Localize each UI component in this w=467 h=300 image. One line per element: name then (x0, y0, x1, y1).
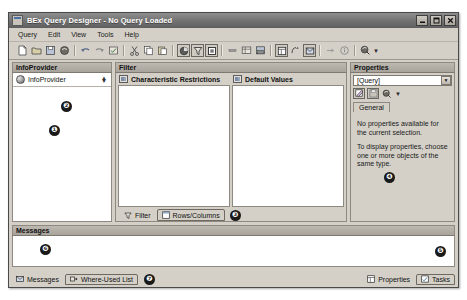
help-dropdown-caret-icon[interactable]: ▼ (373, 48, 379, 54)
properties-panel-icon[interactable] (275, 44, 288, 57)
toolbar-separator (221, 45, 223, 56)
bottom-row: Messages ❻ (12, 225, 455, 267)
status-tab-tasks[interactable]: Tasks (416, 274, 455, 285)
characteristic-restrictions-icon (119, 75, 128, 83)
tab-general[interactable]: General (353, 102, 390, 112)
toolbar-separator (319, 45, 321, 56)
undo-icon[interactable] (79, 44, 92, 57)
tasks-panel-icon[interactable] (289, 44, 302, 57)
application-icon (12, 15, 23, 26)
default-values-header: Default Values (232, 75, 344, 85)
menu-item-help[interactable]: Help (125, 31, 139, 38)
menu-item-tools[interactable]: Tools (97, 31, 113, 38)
callout-4: ❹ (384, 172, 395, 183)
help-pointer-icon[interactable] (359, 44, 372, 57)
status-tab-messages-label: Messages (27, 276, 59, 283)
tab-rows-columns-label: Rows/Columns (173, 212, 220, 219)
infoprovider-sphere-icon (16, 75, 25, 84)
status-tab-tasks-label: Tasks (432, 276, 450, 283)
status-tab-properties-label: Properties (378, 276, 410, 283)
properties-object-selector-value: [Query] (357, 77, 441, 84)
characteristic-restrictions-label: Characteristic Restrictions (131, 76, 220, 83)
messages-panel: Messages ❻ (12, 225, 455, 267)
messages-panel-header: Messages (12, 225, 455, 236)
default-values-section: Default Values (232, 75, 344, 207)
properties-empty-message-2: To display properties, choose one or mor… (357, 143, 448, 169)
cut-icon[interactable] (128, 44, 141, 57)
application-window: BEx Query Designer - No Query Loaded Que… (8, 12, 459, 288)
global-definition-icon[interactable] (177, 44, 190, 57)
infoprovider-tree-item[interactable]: InfoProvider ▲▼ (13, 73, 111, 84)
menu-item-view[interactable]: View (71, 31, 86, 38)
properties-panel-body: No properties available for the current … (350, 112, 455, 222)
chevron-down-icon[interactable]: ▼ (441, 76, 451, 85)
property-help-caret-icon[interactable]: ▼ (395, 91, 401, 97)
title-bar[interactable]: BEx Query Designer - No Query Loaded (9, 13, 458, 28)
redo-icon[interactable] (93, 44, 106, 57)
status-left-tabs: Messages Where-Used List ❼ (12, 274, 155, 285)
properties-empty-message-1: No properties available for the current … (357, 120, 448, 137)
check-query-icon[interactable] (107, 44, 120, 57)
status-tab-messages[interactable]: Messages (12, 274, 63, 285)
exception-icon[interactable] (226, 44, 239, 57)
main-toolbar: ▼ (9, 42, 458, 60)
filter-panel: Filter Characteristic Restrictions ❷ (115, 62, 347, 222)
infoprovider-divider (13, 86, 111, 87)
status-tab-where-used-list-label: Where-Used List (81, 276, 133, 283)
property-save-icon[interactable] (367, 88, 379, 99)
properties-object-selector[interactable]: [Query] ▼ (353, 75, 452, 86)
infoprovider-sort-spinner-icon[interactable]: ▲▼ (101, 77, 107, 83)
characteristic-restrictions-dropzone[interactable]: ❷ (118, 85, 230, 207)
tab-filter[interactable]: Filter (120, 210, 155, 221)
copy-icon[interactable] (142, 44, 155, 57)
new-query-icon[interactable] (16, 44, 29, 57)
filter-panel-body: Characteristic Restrictions ❷ Default Va… (115, 73, 347, 209)
messages-panel-icon[interactable] (303, 44, 316, 57)
properties-buttons: ▼ (353, 86, 452, 99)
callout-2: ❷ (61, 101, 72, 112)
status-tab-where-used-list[interactable]: Where-Used List (65, 274, 138, 285)
tab-rows-columns[interactable]: Rows/Columns (157, 209, 225, 221)
cell-definition-icon[interactable] (205, 44, 218, 57)
window-controls (416, 15, 456, 26)
characteristic-restrictions-header: Characteristic Restrictions (118, 75, 230, 85)
status-right-tabs: Properties Tasks (363, 274, 455, 285)
save-query-icon[interactable] (44, 44, 57, 57)
messages-panel-body[interactable]: ❻ (12, 236, 455, 267)
property-help-icon[interactable] (381, 88, 393, 99)
filter-funnel-icon (124, 212, 132, 220)
close-button[interactable] (444, 15, 456, 26)
callout-6: ❻ (40, 244, 51, 255)
default-values-label: Default Values (245, 76, 293, 83)
where-used-icon[interactable] (324, 44, 337, 57)
menu-item-query[interactable]: Query (18, 31, 37, 38)
toolbar-separator (123, 45, 125, 56)
characteristic-restrictions-section: Characteristic Restrictions ❷ (118, 75, 230, 207)
table-display-icon[interactable] (254, 44, 267, 57)
where-used-list-icon (70, 275, 78, 283)
toolbar-separator (354, 45, 356, 56)
property-edit-icon[interactable] (353, 88, 365, 99)
infoprovider-panel-body[interactable]: InfoProvider ▲▼ ❶ (12, 73, 112, 222)
properties-toolrow: [Query] ▼ ▼ (350, 73, 455, 101)
callout-7: ❼ (144, 274, 155, 285)
toolbar-separator (172, 45, 174, 56)
minimize-button[interactable] (416, 15, 428, 26)
paste-icon[interactable] (156, 44, 169, 57)
tab-general-label: General (359, 104, 384, 111)
tab-filter-label: Filter (135, 212, 151, 219)
info-icon[interactable] (338, 44, 351, 57)
save-as-icon[interactable] (58, 44, 71, 57)
properties-tabrow: General (350, 101, 455, 112)
rows-columns-icon (162, 211, 170, 219)
callout-5: ❺ (435, 246, 446, 257)
top-row: InfoProvider InfoProvider ▲▼ ❶ (12, 62, 455, 222)
filter-icon[interactable] (191, 44, 204, 57)
open-query-icon[interactable] (30, 44, 43, 57)
menu-item-edit[interactable]: Edit (48, 31, 60, 38)
status-tab-properties[interactable]: Properties (363, 274, 414, 285)
infoprovider-item-label: InfoProvider (28, 76, 98, 83)
maximize-button[interactable] (430, 15, 442, 26)
condition-icon[interactable] (240, 44, 253, 57)
default-values-dropzone[interactable] (232, 85, 344, 207)
